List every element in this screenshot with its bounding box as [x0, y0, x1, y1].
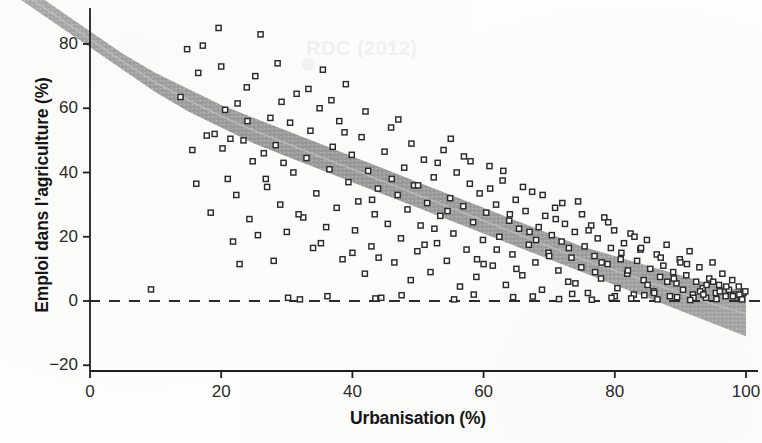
data-point — [598, 276, 603, 281]
data-point — [415, 183, 420, 188]
data-point — [507, 218, 512, 223]
data-point — [605, 262, 610, 267]
data-point — [736, 284, 741, 289]
data-point — [717, 282, 722, 287]
data-point — [454, 170, 459, 175]
data-point — [185, 47, 190, 52]
data-point — [431, 175, 436, 180]
data-point — [638, 245, 643, 250]
data-point — [448, 196, 453, 201]
data-point — [253, 74, 258, 79]
data-point — [362, 271, 367, 276]
data-point — [644, 237, 649, 242]
data-point — [373, 296, 378, 301]
data-point — [658, 274, 663, 279]
data-point — [572, 229, 577, 234]
data-point — [263, 176, 268, 181]
data-point — [359, 135, 364, 140]
data-point — [245, 119, 250, 124]
data-point — [621, 241, 626, 246]
data-point — [671, 270, 676, 275]
data-point — [553, 217, 558, 222]
data-point — [701, 292, 706, 297]
data-point — [635, 258, 640, 263]
data-point — [520, 273, 525, 278]
data-point — [396, 117, 401, 122]
data-point — [196, 70, 201, 75]
data-point — [468, 159, 473, 164]
data-point — [680, 287, 685, 292]
data-point — [200, 43, 205, 48]
data-point — [340, 257, 345, 262]
data-point — [629, 296, 634, 301]
data-point — [520, 184, 525, 189]
data-point — [586, 228, 591, 233]
data-point — [536, 225, 541, 230]
data-point — [329, 98, 334, 103]
data-point — [675, 295, 680, 300]
data-point — [148, 287, 153, 292]
data-point — [334, 205, 339, 210]
data-point — [500, 178, 505, 183]
data-point — [279, 99, 284, 104]
data-point — [582, 244, 587, 249]
data-point — [194, 181, 199, 186]
data-point — [661, 263, 666, 268]
data-point — [255, 233, 260, 238]
data-point — [422, 242, 427, 247]
data-point — [556, 297, 561, 302]
data-point — [228, 136, 233, 141]
data-point — [241, 138, 246, 143]
data-point — [667, 294, 672, 299]
data-point — [273, 143, 278, 148]
data-point — [467, 181, 472, 186]
data-point — [573, 281, 578, 286]
data-point — [216, 25, 221, 30]
x-tick-label: 80 — [605, 382, 624, 402]
data-point — [247, 217, 252, 222]
data-point — [234, 192, 239, 197]
data-point — [711, 279, 716, 284]
data-point — [402, 165, 407, 170]
data-point — [671, 276, 676, 281]
data-point — [178, 94, 183, 99]
data-point — [389, 125, 394, 130]
data-point — [286, 295, 291, 300]
data-point — [507, 212, 512, 217]
data-point — [271, 258, 276, 263]
data-point — [579, 265, 584, 270]
data-point — [346, 180, 351, 185]
data-point — [684, 262, 689, 267]
data-point — [421, 157, 426, 162]
data-point — [714, 297, 719, 302]
data-point — [510, 252, 515, 257]
data-point — [589, 297, 594, 302]
data-point — [441, 147, 446, 152]
data-point — [665, 279, 670, 284]
x-tick-label: 20 — [212, 382, 231, 402]
data-point — [704, 282, 709, 287]
data-point — [352, 228, 357, 233]
data-point — [490, 263, 495, 268]
data-point — [278, 202, 283, 207]
data-point — [658, 255, 663, 260]
data-point — [494, 247, 499, 252]
data-point — [730, 278, 735, 283]
data-point — [408, 278, 413, 283]
data-point — [481, 262, 486, 267]
data-point — [370, 197, 375, 202]
data-point — [418, 223, 423, 228]
data-point — [448, 136, 453, 141]
data-point — [585, 290, 590, 295]
data-point — [606, 220, 611, 225]
figure-scatter-urbanisation-agriculture: Emploi dans l’agriculture (%) Urbanisati… — [0, 0, 762, 443]
data-point — [415, 249, 420, 254]
x-tick-label: 40 — [343, 382, 362, 402]
data-point — [250, 159, 255, 164]
data-point — [208, 210, 213, 215]
data-point — [304, 155, 309, 160]
data-point — [487, 164, 492, 169]
data-point — [678, 260, 683, 265]
data-point — [740, 297, 745, 302]
data-point — [530, 189, 535, 194]
